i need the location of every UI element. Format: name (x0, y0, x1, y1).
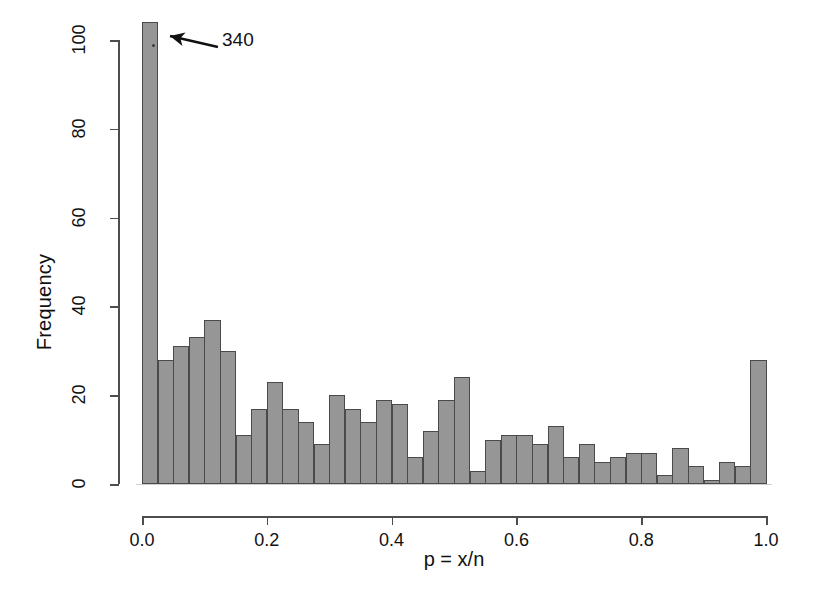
histogram-bar (610, 457, 626, 484)
histogram-bar (158, 360, 174, 484)
histogram-bar (204, 320, 220, 484)
histogram-bar (267, 382, 283, 484)
histogram-bar (423, 431, 439, 484)
histogram-figure: Frequency 020406080100 0.00.20.40.60.81.… (0, 0, 827, 604)
x-tick-mark (392, 516, 394, 525)
histogram-bar (750, 360, 766, 484)
annotation-marker-dot (152, 44, 155, 47)
x-axis-spine (142, 516, 766, 518)
histogram-bar (329, 395, 345, 484)
y-axis-spine (118, 40, 120, 484)
y-tick-mark (110, 484, 119, 486)
histogram-bar (314, 444, 330, 484)
y-tick-label: 20 (69, 372, 90, 418)
x-axis-label: p = x/n (142, 548, 766, 571)
histogram-bar (688, 466, 704, 484)
histogram-bar (501, 435, 517, 484)
x-tick-mark (641, 516, 643, 525)
histogram-bar (563, 457, 579, 484)
x-tick-mark (766, 516, 768, 525)
histogram-bar (532, 444, 548, 484)
y-tick-mark (110, 40, 119, 42)
histogram-bar (438, 400, 454, 484)
histogram-bar (657, 475, 673, 484)
histogram-bar (345, 409, 361, 484)
histogram-bar (454, 377, 470, 484)
y-tick-label: 0 (69, 461, 90, 507)
histogram-bar (251, 409, 267, 484)
histogram-bar (407, 457, 423, 484)
y-tick-label: 60 (69, 194, 90, 240)
y-tick-mark (110, 395, 119, 397)
histogram-bar (672, 448, 688, 484)
histogram-bar (579, 444, 595, 484)
histogram-bar (298, 422, 314, 484)
histogram-bar (548, 426, 564, 484)
annotation-arrow-icon (166, 32, 216, 52)
histogram-bar (641, 453, 657, 484)
y-tick-label: 40 (69, 283, 90, 329)
annotation-label-340: 340 (222, 29, 254, 51)
x-tick-mark (516, 516, 518, 525)
plot-area (142, 14, 766, 484)
histogram-bar (392, 404, 408, 484)
x-tick-mark (142, 516, 144, 525)
y-tick-mark (110, 306, 119, 308)
histogram-bar (376, 400, 392, 484)
histogram-bar (142, 22, 158, 484)
y-tick-label: 100 (69, 17, 90, 63)
histogram-bar (516, 435, 532, 484)
histogram-bar (594, 462, 610, 484)
histogram-bar (282, 409, 298, 484)
histogram-bar (360, 422, 376, 484)
histogram-bar (735, 466, 751, 484)
y-tick-label: 80 (69, 105, 90, 151)
y-axis-label: Frequency (24, 0, 64, 604)
histogram-bar (485, 440, 501, 484)
histogram-bar (236, 435, 252, 484)
histogram-bar (626, 453, 642, 484)
baseline-rule (136, 484, 772, 485)
y-tick-mark (110, 129, 119, 131)
histogram-bar (220, 351, 236, 484)
histogram-bar (173, 346, 189, 484)
histogram-bar (470, 471, 486, 484)
y-tick-mark (110, 218, 119, 220)
histogram-bar (189, 337, 205, 484)
x-tick-mark (267, 516, 269, 525)
histogram-bar (719, 462, 735, 484)
